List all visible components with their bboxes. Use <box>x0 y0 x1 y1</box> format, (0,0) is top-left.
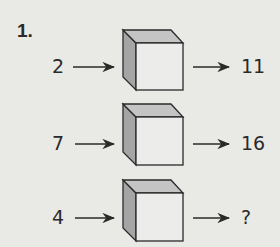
function-machines-diagram <box>0 0 280 247</box>
input-value-1: 2 <box>52 55 64 77</box>
input-value-3: 4 <box>52 206 64 228</box>
output-value-2: 16 <box>241 132 265 154</box>
machine-box-3 <box>123 180 183 241</box>
machine-box-1 <box>123 30 183 90</box>
machine-box-2 <box>123 104 183 165</box>
output-value-1: 11 <box>241 55 265 77</box>
output-value-3: ? <box>241 206 251 228</box>
input-value-2: 7 <box>52 132 64 154</box>
